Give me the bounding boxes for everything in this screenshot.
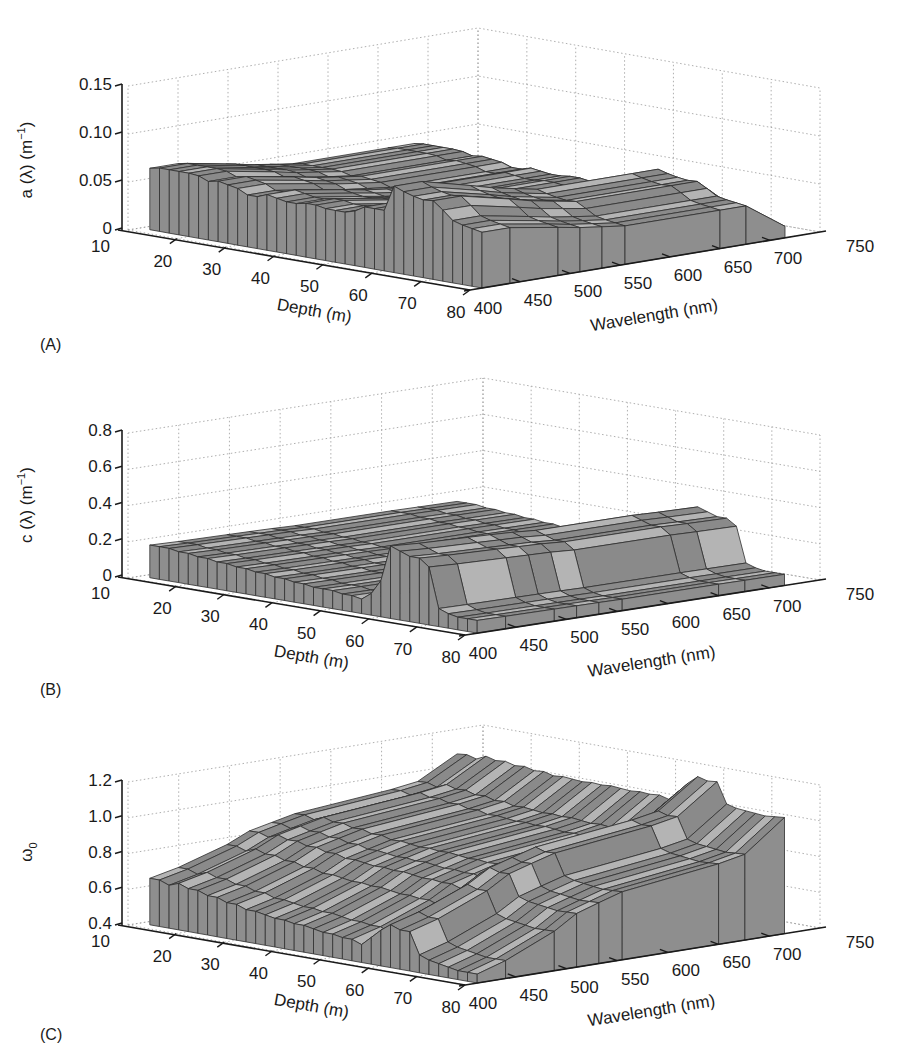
wavelength-tick-label: 750 <box>846 585 874 604</box>
depth-tick-label: 40 <box>249 964 268 983</box>
wavelength-tick-label: 400 <box>469 994 497 1013</box>
z-tick-label: 0.2 <box>88 530 112 549</box>
wavelength-tick-label: 700 <box>774 249 802 268</box>
wavelength-tick-label: 500 <box>570 978 598 997</box>
depth-tick-label: 10 <box>91 237 110 256</box>
depth-axis-title: Depth (m) <box>273 641 351 672</box>
z-tick-label: 0.8 <box>88 421 112 440</box>
depth-tick-label: 20 <box>153 599 172 618</box>
depth-axis-title: Depth (m) <box>276 295 354 327</box>
depth-tick-label: 10 <box>91 932 110 951</box>
depth-tick-label: 20 <box>153 947 172 966</box>
wavelength-tick-label: 500 <box>570 628 598 647</box>
depth-tick-label: 60 <box>345 632 364 651</box>
panel-label: (B) <box>40 681 61 698</box>
depth-tick-label: 50 <box>297 972 316 991</box>
surface-mesh <box>150 501 785 620</box>
depth-tick-label: 20 <box>153 252 172 271</box>
depth-tick-label: 40 <box>251 269 270 288</box>
wavelength-tick-label: 650 <box>724 258 752 277</box>
wavelength-tick-label: 500 <box>574 282 602 301</box>
depth-tick-label: 70 <box>393 640 412 659</box>
z-tick-label: 0.4 <box>88 494 112 513</box>
depth-tick-label: 40 <box>249 615 268 634</box>
depth-tick-label: 80 <box>447 303 466 322</box>
depth-tick-label: 50 <box>300 277 319 296</box>
depth-tick-label: 50 <box>297 624 316 643</box>
depth-tick-label: 30 <box>201 955 220 974</box>
wavelength-tick-label: 550 <box>624 274 652 293</box>
depth-tick-label: 80 <box>442 648 461 667</box>
wavelength-tick-label: 550 <box>621 620 649 639</box>
panel-b-attenuation-surface: 00.20.40.60.8102030405060708040045050055… <box>15 378 874 698</box>
z-tick-label: 0.15 <box>79 75 112 94</box>
wavelength-axis-title: Wavelength (nm) <box>586 991 716 1030</box>
z-tick-label: 0.6 <box>88 457 112 476</box>
panel-label: (A) <box>40 336 61 353</box>
figure-3d-surface-plots: 00.050.100.15102030405060708040045050055… <box>0 0 908 1055</box>
wavelength-tick-label: 600 <box>674 266 702 285</box>
depth-tick-label: 30 <box>201 607 220 626</box>
z-tick-label: 0.4 <box>88 914 112 933</box>
z-tick-label: 0 <box>103 219 112 238</box>
wavelength-tick-label: 650 <box>722 953 750 972</box>
wavelength-tick-label: 450 <box>524 291 552 310</box>
z-axis-title: ω0 <box>17 842 39 861</box>
z-tick-label: 0 <box>103 566 112 585</box>
wavelength-tick-label: 750 <box>846 933 874 952</box>
panel-c-albedo-surface: 0.40.60.81.01.21020304050607080400450500… <box>17 725 874 1043</box>
depth-tick-label: 70 <box>393 989 412 1008</box>
wavelength-axis-title: Wavelength (nm) <box>586 642 716 680</box>
wavelength-tick-label: 400 <box>474 299 502 318</box>
depth-tick-label: 10 <box>91 584 110 603</box>
depth-tick-label: 70 <box>398 294 417 313</box>
z-tick-label: 0.8 <box>88 843 112 862</box>
z-tick-label: 0.10 <box>79 123 112 142</box>
z-axis-title: a (λ) (m−1) <box>15 122 36 199</box>
z-axis-title: c (λ) (m−1) <box>15 467 36 543</box>
panel-a-absorption-surface: 00.050.100.15102030405060708040045050055… <box>15 28 874 353</box>
z-tick-label: 0.05 <box>79 171 112 190</box>
wavelength-tick-label: 700 <box>773 597 801 616</box>
depth-axis-title: Depth (m) <box>273 990 351 1022</box>
wavelength-tick-label: 600 <box>672 613 700 632</box>
panel-label: (C) <box>40 1026 62 1043</box>
z-tick-label: 0.6 <box>88 878 112 897</box>
wavelength-tick-label: 750 <box>846 237 874 256</box>
z-tick-label: 1.0 <box>88 807 112 826</box>
wavelength-tick-label: 600 <box>672 961 700 980</box>
wavelength-tick-label: 650 <box>722 605 750 624</box>
z-tick-label: 1.2 <box>88 771 112 790</box>
wavelength-tick-label: 400 <box>469 644 497 663</box>
wavelength-tick-label: 450 <box>520 986 548 1005</box>
wavelength-tick-label: 450 <box>520 636 548 655</box>
wavelength-tick-label: 700 <box>773 945 801 964</box>
depth-tick-label: 60 <box>349 286 368 305</box>
depth-tick-label: 80 <box>442 998 461 1017</box>
depth-tick-label: 60 <box>345 981 364 1000</box>
depth-tick-label: 30 <box>202 260 221 279</box>
wavelength-axis-title: Wavelength (nm) <box>589 295 719 335</box>
wavelength-tick-label: 550 <box>621 970 649 989</box>
